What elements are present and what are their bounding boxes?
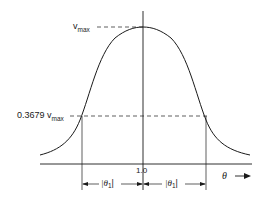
right-arrowhead-right: [200, 182, 206, 186]
left-width-main: |θ: [101, 178, 108, 188]
gaussian-curve: [40, 27, 250, 155]
theta-arrowhead-icon: [244, 173, 251, 179]
vmax-label-main: v: [73, 21, 78, 31]
right-arrowhead-left: [143, 182, 149, 186]
left-width-label: |θ1|: [101, 179, 114, 188]
vmax-label-sub: max: [78, 26, 90, 33]
left-arrowhead-right: [137, 182, 143, 186]
level-label-main: 0.3679 v: [17, 110, 52, 120]
vmax-label: vmax: [73, 22, 90, 31]
level-label: 0.3679 vmax: [17, 111, 64, 120]
level-label-sub: max: [52, 115, 64, 122]
theta-axis-label: θ: [222, 171, 227, 181]
right-width-label: |θ1|: [165, 179, 178, 188]
center-tick-label: 1.0: [136, 167, 147, 175]
left-arrowhead-left: [82, 182, 88, 186]
right-width-main: |θ: [165, 178, 172, 188]
left-width-sub: 1: [108, 182, 112, 189]
right-width-sub: 1: [172, 182, 176, 189]
